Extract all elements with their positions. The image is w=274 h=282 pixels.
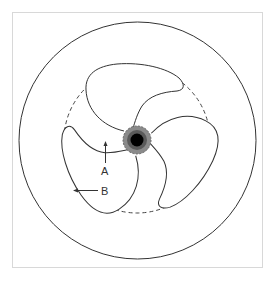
label-b: B [101,185,108,197]
blade-left [48,104,155,222]
shaft [131,134,144,147]
label-a: A [101,165,109,177]
blade-right [122,100,229,218]
impeller-diagram: A B [0,0,274,282]
